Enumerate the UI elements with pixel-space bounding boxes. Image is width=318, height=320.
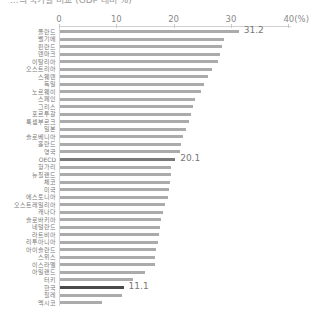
x-tick-label: 0 [56,14,61,24]
x-tick-label: 40(%) [283,14,309,24]
x-tick-label: 10 [111,14,122,24]
value-label: 20.1 [180,153,200,163]
bar [60,45,222,48]
bar [60,30,239,33]
bar [60,120,189,123]
bar [60,203,165,206]
bar [60,188,169,191]
bar [60,75,208,78]
bar [60,294,122,297]
bar [60,83,204,86]
bar [60,263,155,266]
chart-title: ...의 국가별 비교 (GDP 대비 %) [10,0,132,6]
bar [60,113,191,116]
bar [60,233,159,236]
bar [60,211,163,214]
bar [60,271,145,274]
bar [60,286,124,289]
bar [60,60,218,63]
bar [60,256,155,259]
bar-row: 멕시코 [0,299,318,307]
bar [60,68,212,71]
bar [60,196,168,199]
bar [60,98,195,101]
bar [60,143,181,146]
bar [60,135,183,138]
value-label: 11.1 [129,281,149,291]
bar [60,128,186,131]
bar [60,301,102,304]
bar [60,150,180,153]
bar [60,90,201,93]
bar [60,105,193,108]
bar [60,181,170,184]
bar [60,241,158,244]
bar [60,173,171,176]
bar [60,226,160,229]
bar [60,218,161,221]
bar [60,278,133,281]
bar [60,53,220,56]
category-label: 멕시코 [38,299,56,307]
x-tick-label: 20 [168,14,179,24]
bar [60,158,175,161]
x-tick-label: 30 [225,14,236,24]
bar [60,166,171,169]
bar [60,38,224,41]
value-label: 31.2 [244,25,264,35]
bar [60,248,156,251]
